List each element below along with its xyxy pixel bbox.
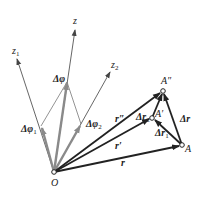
diagram-svg: z z1 z2 Δφ Δφ1 Δφ2 O A A′ A″ r r′ r″ Δr … [0,0,199,197]
dr-label: Δr [179,113,190,124]
z-label: z [72,15,77,26]
dphi1-label: Δφ1 [20,123,37,136]
dphi2-label: Δφ2 [85,118,102,131]
point-A [180,143,185,148]
point-A-dprime [161,89,166,94]
dphi-label: Δφ [52,73,65,84]
O-label: O [51,177,58,188]
dr1-label: Δr1 [154,127,169,140]
r-label: r [121,157,125,168]
dphi1-vector [42,128,54,172]
point-O [52,170,57,175]
r-dprime-label: r″ [115,113,124,124]
z1-label: z1 [11,45,20,58]
point-A-prime [150,116,155,121]
z2-label: z2 [110,59,119,72]
A-dprime-label: A″ [160,75,172,86]
A-label: A [184,143,192,154]
r-prime-label: r′ [115,140,122,151]
construction-line [67,82,81,124]
rotation-diagram: z z1 z2 Δφ Δφ1 Δφ2 O A A′ A″ r r′ r″ Δr … [0,0,199,197]
A-prime-label: A′ [154,108,164,119]
